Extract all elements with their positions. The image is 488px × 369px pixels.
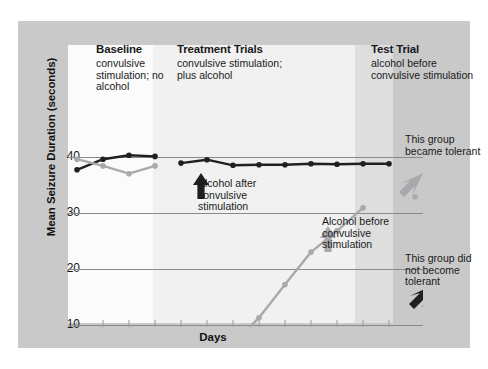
section-treatment-title: Treatment Trials (177, 43, 287, 55)
section-treatment-subtitle: convulsive stimulation; plus alcohol (177, 58, 287, 81)
section-treatment: Treatment Trials convulsive stimulation;… (177, 43, 287, 81)
data-point (386, 161, 392, 167)
data-point (230, 163, 236, 169)
data-point (282, 162, 288, 168)
section-baseline-subtitle: convulsive stimulation; no alcohol (96, 58, 174, 93)
section-test: Test Trial alcohol before convulsive sti… (371, 43, 483, 81)
arrow-grey-to-tolerant-icon (399, 173, 423, 197)
callout-alcohol-after: Alcohol after convulsive stimulation (198, 178, 290, 213)
data-point (74, 167, 80, 173)
data-point (308, 161, 314, 167)
data-point (256, 315, 262, 321)
section-baseline-title: Baseline (96, 43, 174, 55)
data-point (74, 156, 80, 162)
data-point (204, 157, 210, 163)
data-point (360, 161, 366, 167)
data-point (178, 160, 184, 166)
data-point (334, 161, 340, 167)
data-point (256, 162, 262, 168)
x-axis-title: Days (68, 331, 358, 343)
data-point (152, 163, 158, 169)
data-point (360, 205, 366, 211)
data-point (126, 153, 132, 159)
series-path (77, 159, 155, 174)
figure-root: Mean Seizure Duration (seconds) 40 30 20… (0, 0, 488, 369)
callout-became-tolerant: This group became tolerant (405, 134, 485, 157)
data-point (412, 194, 418, 200)
section-test-subtitle: alcohol before convulsive stimulation (371, 58, 483, 81)
data-point (308, 249, 314, 255)
data-point (126, 171, 132, 177)
arrow-black-to-not-tolerant-icon (409, 285, 423, 309)
data-point (282, 282, 288, 288)
callout-alcohol-before: Alcohol before convulsive stimulation (322, 216, 418, 251)
data-point (100, 156, 106, 162)
section-baseline: Baseline convulsive stimulation; no alco… (96, 43, 174, 93)
data-point (100, 163, 106, 169)
data-point (152, 154, 158, 160)
section-test-title: Test Trial (371, 43, 483, 55)
callout-not-tolerant: This group did not become tolerant (405, 253, 485, 288)
